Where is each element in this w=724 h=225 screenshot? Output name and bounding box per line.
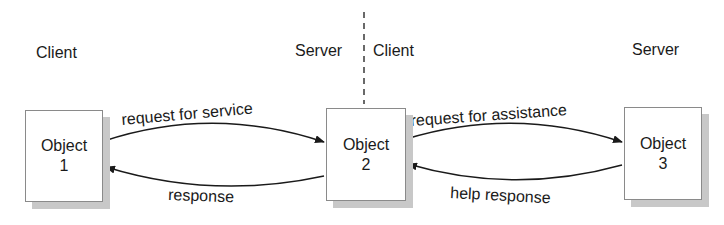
object-3-number: 3 <box>659 154 668 174</box>
arrow-help-response <box>408 164 622 180</box>
label-help-response: help response <box>450 184 551 206</box>
label-response: response <box>168 186 234 205</box>
object-3-box: Object 3 <box>624 107 702 200</box>
object-1-box: Object 1 <box>25 110 103 202</box>
object-2-name: Object <box>343 135 389 155</box>
object-2-number: 2 <box>362 155 371 175</box>
object-1-number: 1 <box>60 156 69 176</box>
object-1-name: Object <box>41 136 87 156</box>
arrow-response <box>106 167 324 186</box>
object-3-name: Object <box>640 134 686 154</box>
object-2-box: Object 2 <box>326 108 406 201</box>
